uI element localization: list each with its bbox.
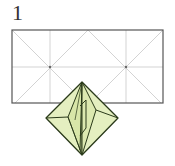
origami-diagram (0, 0, 175, 166)
crease-point-right (125, 66, 127, 68)
crease-point-left (49, 66, 51, 68)
folded-model (46, 82, 118, 155)
